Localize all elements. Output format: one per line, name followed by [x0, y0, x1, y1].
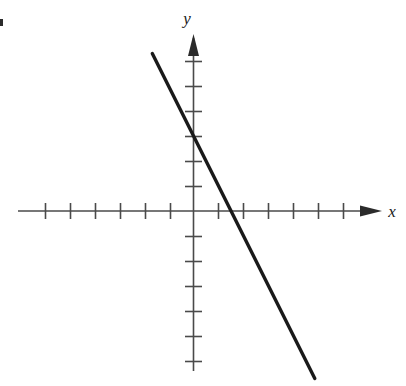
arrow-up-icon	[188, 34, 199, 56]
y-axis-label: y	[181, 9, 191, 28]
x-axis-label: x	[387, 202, 396, 221]
coordinate-plane: y x	[0, 0, 406, 386]
graph-figure: y x	[0, 0, 406, 386]
plotted-line	[152, 54, 314, 379]
arrow-right-icon	[360, 206, 382, 217]
